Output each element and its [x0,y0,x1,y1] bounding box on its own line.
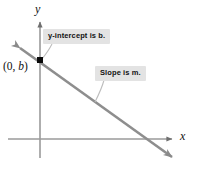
y-intercept-point-marker [37,57,43,63]
slope-callout: Slope is m. [95,66,146,81]
point-label-prefix: (0, [3,60,18,72]
x-axis-label: x [180,130,185,142]
figure-graphics [0,0,197,169]
slope-leader [95,80,104,102]
y-intercept-point-label: (0, b) [3,61,28,73]
y-axis-label: y [35,3,40,15]
point-label-suffix: ) [24,60,28,72]
slope-intercept-figure: (0, b) y x y-intercept is b. Slope is m. [0,0,197,169]
y-intercept-leader [42,44,52,59]
plotted-line [20,48,172,157]
y-intercept-callout: y-intercept is b. [43,29,110,44]
